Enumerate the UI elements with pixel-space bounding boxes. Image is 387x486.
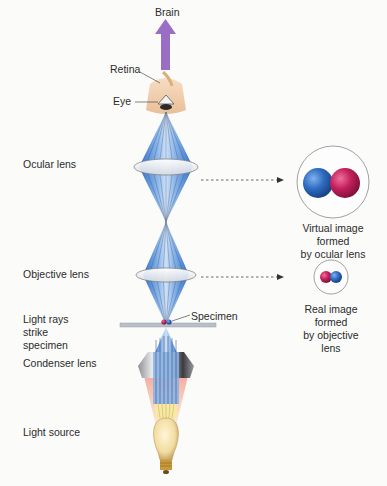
light-rays-label: Light rays strike specimen <box>23 313 69 352</box>
real-image-caption-line4: lens <box>290 342 372 355</box>
retina-leader-line <box>140 72 160 83</box>
light-source-label: Light source <box>23 426 80 439</box>
ocular-lens-label: Ocular lens <box>23 158 76 171</box>
eye-label: Eye <box>113 95 131 108</box>
light-rays-label-line1: Light rays <box>23 313 69 326</box>
virtual-image-caption-line3: by ocular lens <box>288 248 378 261</box>
specimen-leader-line <box>172 315 190 321</box>
specimen-label: Specimen <box>191 310 238 323</box>
virtual-image-caption-line1: Virtual image <box>288 222 378 235</box>
brain-label: Brain <box>155 6 180 19</box>
objective-lens-icon <box>136 268 196 282</box>
brain-arrow-icon <box>155 19 176 70</box>
retina-label: Retina <box>110 63 140 76</box>
objective-lens-label: Objective lens <box>23 268 89 281</box>
virtual-image-caption-line2: formed <box>288 235 378 248</box>
virtual-image-caption: Virtual image formed by ocular lens <box>288 222 378 261</box>
virtual-image-icon <box>297 146 369 218</box>
condenser-lens-label: Condenser lens <box>23 357 97 370</box>
virtual-image-arrow <box>201 177 284 183</box>
real-image-caption: Real image formed by objective lens <box>290 303 372 355</box>
real-image-icon <box>314 260 348 294</box>
ocular-lens-icon <box>134 159 198 175</box>
real-image-caption-line3: by objective <box>290 329 372 342</box>
real-image-caption-line2: formed <box>290 316 372 329</box>
light-rays-label-line2: strike <box>23 326 69 339</box>
real-image-arrow <box>201 274 284 280</box>
real-image-caption-line1: Real image <box>290 303 372 316</box>
light-rays-label-line3: specimen <box>23 339 69 352</box>
light-bulb-icon <box>154 418 179 474</box>
